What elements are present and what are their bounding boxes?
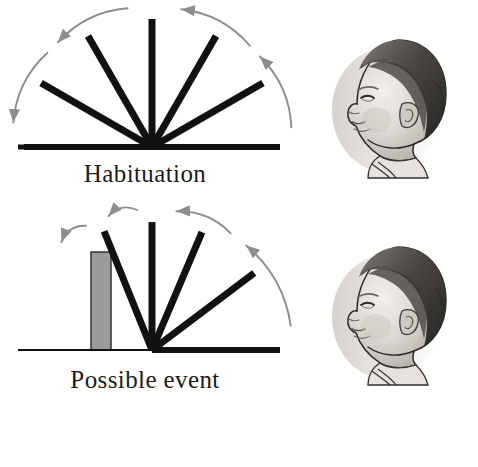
infant-profile-drawing bbox=[328, 28, 460, 180]
possible-event-diagram bbox=[0, 203, 290, 363]
rotation-arrow-tail-1 bbox=[176, 211, 230, 233]
panel-possible-event bbox=[0, 203, 290, 363]
habituation-diagram bbox=[0, 0, 290, 160]
occluder-box bbox=[91, 252, 111, 350]
possible-event-caption: Possible event bbox=[0, 366, 290, 394]
possible-event-flaps bbox=[104, 222, 280, 350]
habituation-caption: Habituation bbox=[0, 160, 290, 188]
panel-habituation bbox=[0, 0, 290, 160]
rotation-arrow-head-2 bbox=[104, 202, 121, 219]
possible-event-box bbox=[91, 252, 111, 350]
infant-head-bottom-image bbox=[328, 235, 460, 387]
rotation-arrow-head-1 bbox=[176, 205, 190, 217]
rotation-arrow-head-3 bbox=[8, 109, 20, 123]
figure-canvas: Habituation Possible event bbox=[0, 0, 478, 467]
rotation-arrow-head-1 bbox=[181, 4, 196, 17]
infant-head-top-image bbox=[328, 28, 460, 180]
infant-profile-drawing bbox=[328, 235, 460, 387]
